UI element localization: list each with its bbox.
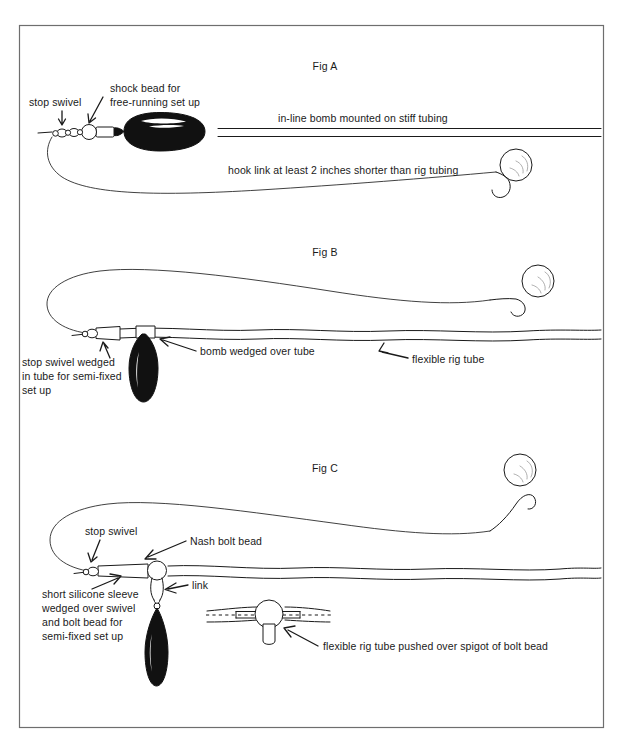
- fig-b-hook-link: [47, 269, 490, 334]
- fig-c-hook: [490, 495, 536, 531]
- fig-a-swivel-ring-end: [53, 131, 59, 137]
- fig-b-stop-swivel-label-line1: stop swivel wedged: [22, 356, 115, 368]
- fig-c-inset-caption: flexible rig tube pushed over spigot of …: [323, 640, 548, 652]
- fig-b-stop-swivel-label-line3: set up: [22, 384, 51, 396]
- fig-a-swivel-ring-head: [77, 130, 82, 135]
- fig-c-sleeve-label-line1: short silicone sleeve: [42, 588, 139, 600]
- figure-c: Fig C: [41, 454, 601, 686]
- fig-c-tube-bottom: [168, 576, 601, 580]
- fig-c-swivel-tag: [74, 572, 83, 573]
- fig-c-bolt-bead-inset: flexible rig tube pushed over spigot of …: [206, 600, 548, 652]
- fig-c-link-clip: [151, 578, 164, 600]
- inset-tube-left-top: [207, 607, 258, 611]
- fig-b-tube-top: [120, 328, 601, 332]
- inset-tube-right-bottom: [285, 620, 330, 622]
- fig-a-swivel-ring-mid: [65, 130, 70, 135]
- figure-b: Fig B stop swivel wedged in: [22, 246, 601, 402]
- fig-c-nash-bolt-bead: [148, 561, 167, 580]
- fig-c-link-arrow: [165, 583, 188, 593]
- fig-b-boilie: [522, 265, 554, 297]
- fig-c-hook-link: [50, 503, 490, 572]
- fig-b-tube-sleeve: [96, 327, 120, 341]
- fig-b-tube-bottom: [120, 337, 601, 341]
- fig-b-swivel-ring: [82, 331, 88, 337]
- rig-diagram-canvas: Fig A: [0, 0, 622, 745]
- inset-tube-left-bottom: [207, 620, 258, 622]
- fig-a-shock-bead-arrow: [88, 97, 103, 123]
- fig-a-shock-bead: [82, 125, 97, 140]
- fig-b-flexible-tube-arrow: [379, 343, 408, 358]
- fig-a-hook-link-label: hook link at least 2 inches shorter than…: [228, 164, 458, 176]
- fig-c-sleeve-label-line3: and bolt bead for: [42, 616, 123, 628]
- inset-bolt-bead-spigot: [263, 624, 275, 644]
- diagram-page: Fig A: [0, 0, 622, 745]
- fig-a-stop-swivel-label: stop swivel: [29, 96, 81, 108]
- fig-c-stop-swivel-arrow: [88, 540, 100, 562]
- fig-a-shock-bead-label-line2: free-running set up: [110, 96, 200, 108]
- fig-a-tubing-label: in-line bomb mounted on stiff tubing: [278, 112, 448, 124]
- fig-c-sleeve-label-line2: wedged over swivel: [41, 602, 135, 614]
- fig-b-flexible-tube-label: flexible rig tube: [412, 353, 484, 365]
- fig-c-pear-lead: [145, 608, 168, 686]
- fig-c-tube-top: [168, 566, 601, 570]
- fig-c-silicone-sleeve: [98, 564, 148, 578]
- fig-b-swivel-tag: [72, 334, 82, 335]
- fig-c-caption: Fig C: [312, 462, 338, 474]
- fig-b-bomb: [129, 334, 158, 402]
- fig-b-bomb-arrow: [160, 337, 196, 351]
- fig-c-link-label: link: [192, 579, 209, 591]
- fig-c-inset-arrow: [284, 626, 318, 646]
- inset-tube-right-top: [285, 607, 330, 611]
- fig-a-shock-bead-label-line1: shock bead for: [110, 82, 181, 94]
- fig-b-caption: Fig B: [312, 246, 338, 258]
- fig-c-nash-bead-arrow: [145, 541, 186, 559]
- fig-b-bomb-label: bomb wedged over tube: [200, 345, 315, 357]
- fig-c-swivel-ring: [83, 569, 89, 575]
- fig-c-nash-bead-label: Nash bolt bead: [190, 535, 262, 547]
- fig-c-stop-swivel-label: stop swivel: [85, 525, 137, 537]
- fig-a-caption: Fig A: [313, 60, 338, 72]
- fig-c-boilie: [504, 454, 536, 486]
- fig-c-sleeve-label-line4: semi-fixed set up: [42, 630, 123, 642]
- figure-a: Fig A: [29, 60, 601, 198]
- fig-a-stop-swivel-arrow: [59, 111, 66, 125]
- fig-b-hook: [490, 299, 525, 317]
- fig-a-inline-bomb: [124, 113, 205, 152]
- fig-a-tube-stub: [96, 127, 114, 137]
- fig-b-stop-swivel-label-line2: in tube for semi-fixed: [22, 370, 122, 382]
- fig-a-mainline: [38, 132, 52, 133]
